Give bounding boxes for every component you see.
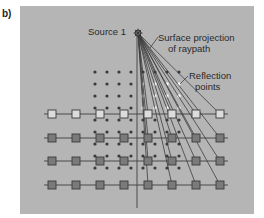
midpoint-dot [117,166,120,169]
receiver-station [48,181,56,189]
surface-projection-label-line1: Surface projection [158,32,235,43]
midpoint-dot [141,166,144,169]
receiver-station [192,181,200,189]
receiver-station [72,181,80,189]
receiver-station [72,134,80,142]
midpoint-dot [117,82,120,85]
receiver-station [168,110,176,118]
midpoint-dot [93,166,96,169]
midpoint-dot [129,94,132,97]
receiver-station [192,157,200,165]
midpoint-dot [129,154,132,157]
receiver-station [216,157,224,165]
midpoint-dot [117,106,120,109]
receiver-station [144,110,152,118]
receiver-station [48,134,56,142]
midpoint-dot [117,94,120,97]
source-label: Source 1 [88,26,126,37]
midpoint-dot [129,106,132,109]
receiver-station [48,110,56,118]
midpoint-dot [93,142,96,145]
receiver-station [120,134,128,142]
midpoint-dot [105,166,108,169]
midpoint-dot [177,154,180,157]
surface-projection-label-line2: of raypath [168,43,210,54]
midpoint-dot [117,70,120,73]
survey-diagram: Source 1 Surface projection of raypath R… [0,0,264,218]
midpoint-dot [117,142,120,145]
midpoint-dot [129,130,132,133]
receiver-station [120,110,128,118]
midpoint-dot [93,82,96,85]
midpoint-dot [129,166,132,169]
midpoint-dot [93,70,96,73]
midpoint-dot [105,82,108,85]
receiver-station [48,157,56,165]
midpoint-dot [105,130,108,133]
midpoint-dot [153,118,156,121]
midpoint-dot [141,142,144,145]
receiver-station [144,181,152,189]
receiver-station [96,181,104,189]
receiver-station [192,134,200,142]
midpoint-dot [105,70,108,73]
receiver-station [96,157,104,165]
midpoint-dot [165,130,168,133]
midpoint-dot [129,70,132,73]
receiver-station [144,157,152,165]
receiver-station [216,181,224,189]
midpoint-dot [105,154,108,157]
receiver-station [72,110,80,118]
midpoint-dot [129,82,132,85]
receiver-station [96,110,104,118]
reflection-points-label-line1: Reflection [189,70,231,81]
midpoint-dot [93,130,96,133]
receiver-station [216,134,224,142]
receiver-station [72,157,80,165]
midpoint-dot [105,94,108,97]
midpoint-dot [129,142,132,145]
receiver-station [144,134,152,142]
midpoint-dot [117,118,120,121]
midpoint-dot [93,106,96,109]
midpoint-dot [153,154,156,157]
midpoint-dot [105,142,108,145]
reflection-points-label-line2: points [195,81,221,92]
midpoint-dot [117,130,120,133]
receiver-station [168,157,176,165]
receiver-station [96,134,104,142]
receiver-station [192,110,200,118]
midpoint-dot [153,130,156,133]
receiver-station [216,110,224,118]
midpoint-dot [105,106,108,109]
midpoint-dot [105,118,108,121]
receiver-station [120,157,128,165]
midpoint-dot [93,94,96,97]
midpoint-dot [129,118,132,121]
midpoint-dot [177,130,180,133]
source-marker [134,29,143,38]
receiver-station [120,181,128,189]
midpoint-dot [177,166,180,169]
midpoint-dot [153,142,156,145]
receiver-station [168,134,176,142]
midpoint-dot [153,166,156,169]
midpoint-dot [93,118,96,121]
receiver-station [168,181,176,189]
